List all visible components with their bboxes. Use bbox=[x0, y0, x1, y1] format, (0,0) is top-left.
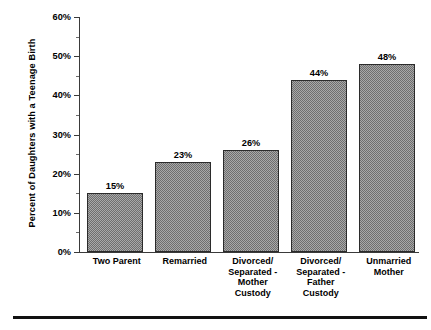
x-axis-label-line: Two Parent bbox=[83, 256, 151, 267]
x-axis-category-labels: Two ParentRemarriedDivorced/Separated -M… bbox=[79, 256, 419, 306]
bars-layer: 15%23%26%44%48% bbox=[79, 17, 419, 252]
x-axis-label-line: Custody bbox=[219, 288, 287, 299]
y-tick-label: 60% bbox=[53, 12, 71, 22]
bar bbox=[155, 162, 211, 252]
bar-value-label: 26% bbox=[223, 138, 279, 148]
x-axis-label-line: Unmarried bbox=[355, 256, 423, 267]
x-axis-label-line: Father bbox=[287, 277, 355, 288]
bar bbox=[87, 193, 143, 252]
x-axis-label-line: Divorced/ bbox=[287, 256, 355, 267]
x-axis-label-line: Divorced/ bbox=[219, 256, 287, 267]
x-axis-label-line: Custody bbox=[287, 288, 355, 299]
plot-area: 60%50%40%30%20%10%0% 15%23%26%44%48% bbox=[79, 17, 419, 252]
y-axis-title: Percent of Daughters with a Teenage Birt… bbox=[27, 13, 37, 253]
x-axis-line bbox=[79, 252, 419, 253]
x-axis-label-line: Separated - bbox=[219, 267, 287, 278]
x-axis-label-line: Mother bbox=[355, 267, 423, 278]
x-axis-label: Divorced/Separated -FatherCustody bbox=[287, 256, 355, 298]
bar-chart-figure: Percent of Daughters with a Teenage Birt… bbox=[0, 0, 431, 330]
bottom-divider-rule bbox=[13, 316, 427, 319]
bar bbox=[223, 150, 279, 252]
y-tick-label: 30% bbox=[53, 130, 71, 140]
bar bbox=[291, 80, 347, 252]
bar-value-label: 23% bbox=[155, 150, 211, 160]
x-axis-label: Divorced/Separated -MotherCustody bbox=[219, 256, 287, 298]
x-axis-label-line: Mother bbox=[219, 277, 287, 288]
bar-value-label: 44% bbox=[291, 68, 347, 78]
x-axis-label: UnmarriedMother bbox=[355, 256, 423, 277]
bar-value-label: 15% bbox=[87, 181, 143, 191]
bar bbox=[359, 64, 415, 252]
x-axis-label: Two Parent bbox=[83, 256, 151, 267]
bar-value-label: 48% bbox=[359, 52, 415, 62]
x-axis-label: Remarried bbox=[151, 256, 219, 267]
y-tick-label: 50% bbox=[53, 51, 71, 61]
y-tick-label: 10% bbox=[53, 208, 71, 218]
y-tick-label: 20% bbox=[53, 169, 71, 179]
x-axis-label-line: Separated - bbox=[287, 267, 355, 278]
x-axis-label-line: Remarried bbox=[151, 256, 219, 267]
y-tick-label: 0% bbox=[58, 247, 71, 257]
y-tick-label: 40% bbox=[53, 90, 71, 100]
y-tick-major bbox=[74, 252, 79, 253]
